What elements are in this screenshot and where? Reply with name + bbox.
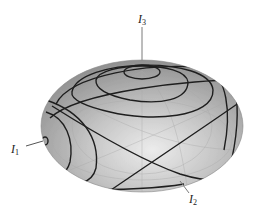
ellipsoid-svg — [0, 0, 255, 211]
label-i1: I1 — [11, 143, 19, 157]
axis-i1-line — [26, 141, 43, 146]
label-i2: I2 — [189, 193, 197, 207]
ellipsoid-diagram: I3 I1 I2 — [0, 0, 255, 211]
label-i3: I3 — [138, 13, 146, 27]
